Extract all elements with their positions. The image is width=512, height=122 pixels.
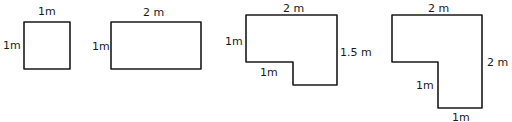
l-shape-large-right-label: 2 m <box>487 56 508 69</box>
l-shape-small-top-label: 2 m <box>283 2 304 15</box>
shapes-diagram: 1m 1m 2 m 1m 2 m 1m 1.5 m 1m 2 m 2 m 1m … <box>0 0 512 122</box>
l-shape-small-inner-bottom-label: 1m <box>260 66 278 79</box>
rectangle-outline <box>111 22 201 69</box>
square-top-label: 1m <box>38 5 56 18</box>
l-shape-large-outline <box>392 15 482 108</box>
l-shape-small-right-label: 1.5 m <box>340 46 372 59</box>
square-shape: 1m 1m <box>3 5 70 69</box>
rectangle-left-label: 1m <box>92 40 110 53</box>
rectangle-shape: 2 m 1m <box>92 6 201 69</box>
square-outline <box>24 22 70 69</box>
l-shape-large: 2 m 2 m 1m 1m <box>392 2 508 122</box>
square-left-label: 1m <box>3 39 21 52</box>
l-shape-large-bottom-label: 1m <box>452 111 470 122</box>
l-shape-small-left-label: 1m <box>225 35 243 48</box>
rectangle-top-label: 2 m <box>143 6 164 19</box>
l-shape-large-top-label: 2 m <box>428 2 449 15</box>
l-shape-small: 2 m 1m 1.5 m 1m <box>225 2 372 85</box>
l-shape-large-inner-left-label: 1m <box>416 79 434 92</box>
